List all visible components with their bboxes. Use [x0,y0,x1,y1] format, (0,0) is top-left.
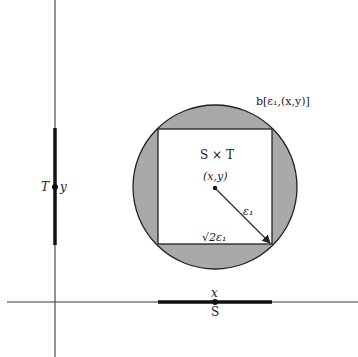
product-label: S × T [200,148,234,162]
y-axis-point-label: y [59,180,67,194]
y-axis-set-label: T [41,180,50,194]
diagram-svg: b[ε₁,(x,y)] S × T (x,y) ε₁ √2ε₁ T y x S [0,0,358,357]
radius-label: ε₁ [243,205,253,218]
y-point-dot [52,184,58,190]
point-label: (x,y) [203,170,228,183]
side-label: √2ε₁ [202,231,226,244]
ball-label: b[ε₁,(x,y)] [256,95,310,108]
x-axis-point-label: x [211,286,218,300]
x-axis-set-label: S [211,305,219,319]
diagram-canvas: b[ε₁,(x,y)] S × T (x,y) ε₁ √2ε₁ T y x S [0,0,358,357]
